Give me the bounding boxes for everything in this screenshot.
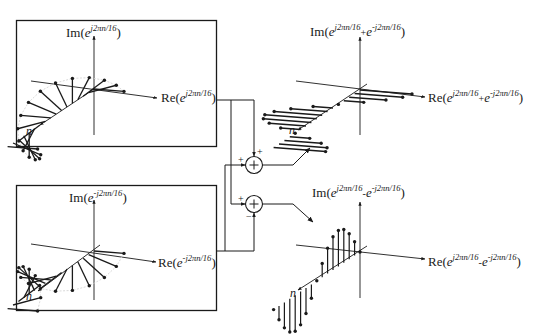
sample-dot — [17, 266, 20, 269]
n-axis — [298, 84, 367, 130]
summer-top-sign-left: + — [238, 155, 244, 165]
sample-dot — [122, 90, 125, 93]
diagram-svg — [0, 0, 543, 334]
sample-dot — [337, 229, 340, 232]
negative-n-axis-label: n — [26, 289, 32, 304]
sum-n-axis-label: n — [289, 123, 295, 138]
sum-im-axis-label: Im(ej2πn/16+e-j2πn/16) — [310, 25, 405, 39]
sample-dot — [38, 284, 41, 287]
sample-dot — [272, 308, 275, 311]
signal-wiring — [217, 100, 313, 251]
sample-stem — [291, 109, 328, 112]
wire-top-to-sum — [217, 100, 254, 156]
sample-stem — [284, 140, 321, 143]
sample-dot — [384, 98, 387, 101]
sample-dot — [342, 228, 345, 231]
re-axis — [31, 244, 156, 262]
sample-dot — [362, 101, 365, 104]
sample-stem — [263, 119, 311, 123]
sample-dot — [28, 156, 31, 159]
sample-dot — [308, 137, 311, 140]
difference-re-axis-label: Re(ej2πn/16-e-j2πn/16) — [428, 255, 521, 269]
sample-dot — [39, 153, 42, 156]
summer-bottom-sign-left: + — [238, 194, 244, 204]
sample-dot — [289, 107, 292, 110]
sample-dot — [39, 296, 42, 299]
sample-dot — [39, 287, 42, 290]
sample-dot — [103, 276, 106, 279]
sample-dot — [103, 79, 106, 82]
sample-dot — [326, 246, 329, 249]
sample-dot — [299, 323, 302, 326]
sample-dot — [315, 279, 318, 282]
sample-dot — [38, 157, 41, 160]
positive-re-axis-label: Re(ej2πn/16) — [161, 91, 216, 104]
sample-dot — [277, 318, 280, 321]
sample-dot — [283, 326, 286, 329]
sample-dot — [294, 330, 297, 333]
sample-dot — [321, 262, 324, 265]
positive-exponential-plot — [8, 36, 157, 162]
sample-dot — [319, 142, 322, 145]
sample-dot — [353, 240, 356, 243]
sample-dot — [310, 296, 313, 299]
sample-stem — [279, 144, 327, 148]
sample-dot — [358, 250, 361, 253]
difference-n-axis-label: n — [290, 286, 296, 301]
sample-dot — [304, 312, 307, 315]
sample-dot — [401, 96, 404, 99]
sample-stem — [265, 115, 317, 119]
sample-dot — [348, 232, 351, 235]
sample-stem — [89, 255, 117, 267]
sample-stem — [344, 101, 364, 103]
sample-stem — [78, 262, 89, 286]
sample-dot — [122, 252, 125, 255]
wire-bottom-to-sum — [225, 165, 245, 251]
sample-dot — [19, 276, 22, 279]
summer-bottom — [246, 196, 263, 213]
sample-dot — [337, 103, 340, 106]
sample-dot — [27, 101, 30, 104]
sample-dot — [21, 149, 24, 152]
sample-dot — [28, 268, 31, 271]
positive-n-axis-label: n — [26, 124, 32, 139]
sample-dot — [54, 289, 57, 292]
sample-dot — [325, 146, 328, 149]
sample-dot — [311, 105, 314, 108]
sample-dot — [263, 113, 266, 116]
sample-stem — [21, 115, 51, 117]
sample-stem — [94, 251, 124, 253]
sample-dot — [71, 289, 74, 292]
sample-stem — [355, 94, 403, 98]
diagram-canvas: + + + − Im(ej2πn/16) Re(ej2πn/16) n Im(e… — [0, 0, 543, 334]
negative-re-axis-label: Re(e-j2πn/16) — [158, 256, 216, 269]
sample-dot — [71, 77, 74, 80]
sum-output-plot — [262, 37, 425, 153]
summer-top-sign-top: + — [257, 147, 263, 157]
difference-im-axis-label: Im(ej2πn/16-e-j2πn/16) — [312, 186, 405, 200]
sample-dot — [331, 235, 334, 238]
sample-dot — [279, 126, 282, 129]
summer-bottom-sign-bottom: − — [246, 212, 252, 222]
sample-dot — [16, 270, 19, 273]
sample-stem — [274, 148, 326, 152]
sample-stem — [269, 123, 306, 126]
sample-dot — [115, 84, 118, 87]
sample-stem — [274, 112, 322, 116]
sample-dot — [16, 127, 19, 130]
sample-dot — [262, 117, 265, 120]
sample-dot — [288, 330, 291, 333]
sample-dot — [34, 274, 37, 277]
wire-diff-out — [263, 204, 313, 222]
difference-output-plot — [272, 202, 425, 334]
sample-dot — [54, 81, 57, 84]
sample-dot — [272, 110, 275, 113]
sample-dot — [21, 265, 24, 268]
sum-re-axis-label: Re(ej2πn/16+e-j2πn/16) — [428, 91, 523, 105]
sample-dot — [36, 309, 39, 312]
sample-dot — [88, 76, 91, 79]
wire-top-to-diff — [231, 100, 245, 204]
sample-dot — [410, 92, 413, 95]
sample-stem — [56, 83, 67, 107]
sample-stem — [360, 90, 412, 94]
